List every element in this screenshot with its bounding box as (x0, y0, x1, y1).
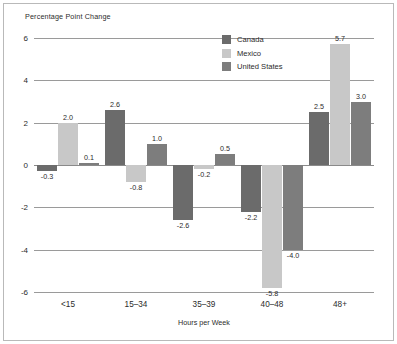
gridline--2 (34, 207, 374, 208)
bar-value-label: 3.0 (356, 92, 366, 101)
y-tick-label: 4 (24, 76, 28, 85)
bar-value-label: -0.2 (198, 170, 210, 179)
legend-swatch-icon (222, 49, 231, 58)
y-tick-label: -2 (21, 203, 28, 212)
legend-item-canada: Canada (222, 35, 283, 44)
chart-figure: Percentage Point Change 6420-2-4-6-0.32.… (0, 0, 397, 344)
legend-item-mexico: Mexico (222, 49, 283, 58)
gridline--4 (34, 250, 374, 251)
x-tick-label-4: 48+ (333, 300, 347, 309)
x-tick-label-1: 15–34 (125, 300, 148, 309)
bar-us-1 (147, 144, 167, 165)
x-tick-label-0: <15 (61, 300, 75, 309)
bar-mexico-2 (194, 165, 214, 169)
legend-label: United States (237, 62, 283, 71)
y-tick-label: -6 (21, 288, 28, 297)
bar-value-label: 2.5 (314, 102, 324, 111)
bar-value-label: 0.1 (84, 153, 94, 162)
gridline-4 (34, 80, 374, 81)
y-tick-label: 2 (24, 118, 28, 127)
x-tick-label-3: 40–48 (261, 300, 284, 309)
legend-label: Mexico (237, 49, 261, 58)
x-tick-label-2: 35–39 (193, 300, 216, 309)
bar-us-3 (283, 165, 303, 250)
plot-area: 6420-2-4-6-0.32.00.12.6-0.81.0-2.6-0.20.… (34, 38, 374, 292)
bar-value-label: -2.6 (177, 221, 189, 230)
gridline--6 (34, 292, 374, 293)
legend-label: Canada (237, 35, 264, 44)
bar-value-label: 1.0 (152, 134, 162, 143)
bar-value-label: -0.8 (130, 183, 142, 192)
legend-swatch-icon (222, 35, 231, 44)
x-axis-title: Hours per Week (178, 318, 230, 327)
bar-value-label: 2.6 (110, 100, 120, 109)
bar-canada-3 (241, 165, 261, 212)
bar-mexico-4 (330, 44, 350, 165)
y-axis-title: Percentage Point Change (25, 12, 111, 21)
bar-us-4 (351, 102, 371, 166)
y-tick-label: 0 (24, 161, 28, 170)
bar-us-0 (79, 163, 99, 165)
bar-value-label: -0.3 (41, 172, 53, 181)
bar-us-2 (215, 154, 235, 165)
bar-canada-4 (309, 112, 329, 165)
y-tick-label: 6 (24, 34, 28, 43)
legend-item-us: United States (222, 62, 283, 71)
bar-mexico-1 (126, 165, 146, 182)
y-tick-label: -4 (21, 245, 28, 254)
bar-mexico-0 (58, 123, 78, 165)
bar-mexico-3 (262, 165, 282, 288)
legend-swatch-icon (222, 62, 231, 71)
gridline-6 (34, 38, 374, 39)
bar-value-label: 5.7 (335, 34, 345, 43)
bar-canada-0 (37, 165, 57, 171)
bar-value-label: -2.2 (245, 213, 257, 222)
bar-value-label: 2.0 (63, 113, 73, 122)
bar-canada-2 (173, 165, 193, 220)
chart-legend: CanadaMexicoUnited States (222, 35, 283, 71)
bar-value-label: 0.5 (220, 144, 230, 153)
bar-canada-1 (105, 110, 125, 165)
bar-value-label: -5.8 (266, 289, 278, 298)
bar-value-label: -4.0 (287, 251, 299, 260)
